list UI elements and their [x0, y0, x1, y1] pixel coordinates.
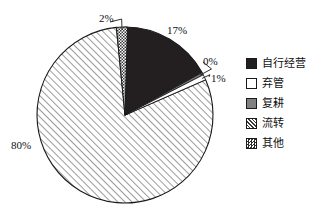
legend-item-qiguan[interactable]: 弃管: [246, 74, 328, 92]
legend-swatch-checker-icon: [246, 138, 257, 149]
pie-label-qiguan: 1%: [211, 73, 226, 84]
pie-label-fugeng: 0%: [203, 56, 218, 67]
legend-swatch-solid-dark-icon: [246, 58, 257, 69]
legend-label-liuzhuan: 流转: [262, 118, 284, 129]
legend-item-liuzhuan[interactable]: 流转: [246, 114, 328, 132]
pie-chart-figure: 17% 0% 1% 80% 2% 自行经营 弃管 复耕 流转 其他: [0, 0, 328, 222]
legend-label-fugeng: 复耕: [262, 98, 284, 109]
chart-legend: 自行经营 弃管 复耕 流转 其他: [246, 54, 328, 152]
pie-slices: [37, 27, 213, 203]
legend-item-zixingjingying[interactable]: 自行经营: [246, 54, 328, 72]
legend-item-qita[interactable]: 其他: [246, 134, 328, 152]
legend-swatch-white-icon: [246, 78, 257, 89]
legend-label-qiguan: 弃管: [262, 78, 284, 89]
legend-label-qita: 其他: [262, 138, 284, 149]
legend-item-fugeng[interactable]: 复耕: [246, 94, 328, 112]
legend-swatch-diagonal-hatch-icon: [246, 118, 257, 129]
pie-label-qita: 2%: [99, 13, 114, 24]
legend-label-zixingjingying: 自行经营: [262, 58, 306, 69]
pie-label-liuzhuan: 80%: [11, 140, 31, 151]
pie-label-zixingjingying: 17%: [167, 25, 187, 36]
legend-swatch-solid-gray-icon: [246, 98, 257, 109]
